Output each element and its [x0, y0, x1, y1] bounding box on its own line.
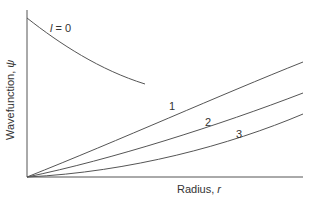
curve-label-l0: l = 0: [50, 22, 71, 34]
wavefunction-chart: l = 0 1 2 3 Radius, r Wavefunction, ψ: [0, 0, 316, 201]
y-axis-label: Wavefunction, ψ: [4, 60, 16, 140]
curve-l0: [27, 18, 145, 84]
curve-l1: [27, 62, 303, 177]
x-axis-label: Radius, r: [177, 183, 222, 195]
curve-l2: [27, 93, 303, 177]
curve-label-2: 2: [205, 116, 211, 128]
curve-label-1: 1: [169, 100, 175, 112]
curve-label-3: 3: [236, 128, 242, 140]
